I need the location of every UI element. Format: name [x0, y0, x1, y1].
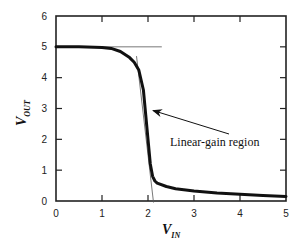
annotation-arrow	[153, 111, 229, 135]
x-axis-label-sub: IN	[170, 231, 181, 240]
y-tick-label: 6	[41, 11, 47, 22]
x-tick-label: 5	[283, 208, 289, 219]
y-tick-label: 1	[41, 165, 47, 176]
x-axis-label: VIN	[162, 222, 181, 240]
tangent-line	[137, 56, 154, 202]
y-axis-ticks: 0123456	[41, 11, 286, 207]
y-tick-label: 3	[41, 103, 47, 114]
x-tick-label: 1	[99, 208, 105, 219]
y-axis-label-sub: OUT	[23, 99, 32, 117]
y-tick-label: 2	[41, 134, 47, 145]
transfer-characteristic-chart: 0123456 012345 Linear-gain region VIN VO…	[0, 0, 303, 248]
transfer-curve	[56, 47, 286, 197]
y-tick-label: 4	[41, 72, 47, 83]
plot-frame	[56, 16, 286, 201]
y-tick-label: 5	[41, 41, 47, 52]
y-axis-label: VOUT	[14, 99, 32, 126]
annotation-label: Linear-gain region	[170, 135, 259, 149]
x-tick-label: 4	[237, 208, 243, 219]
x-tick-label: 3	[191, 208, 197, 219]
x-tick-label: 2	[145, 208, 151, 219]
x-tick-label: 0	[53, 208, 59, 219]
y-tick-label: 0	[41, 196, 47, 207]
